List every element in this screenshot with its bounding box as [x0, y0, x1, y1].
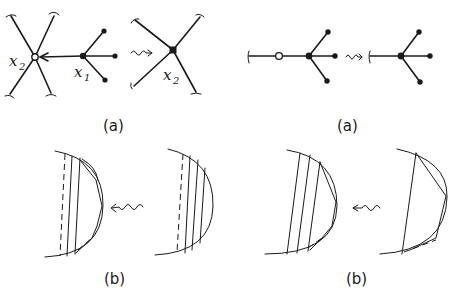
- star-graph-x2: x 2 x 1: [5, 12, 118, 98]
- caption-a-right: (a): [337, 117, 358, 135]
- caption-a-left: (a): [103, 117, 124, 135]
- panel-a-left: x 2 x 1 x 2 (a): [5, 12, 204, 135]
- panel-a-right: (a): [248, 29, 433, 135]
- path-with-open-vertex: [248, 29, 338, 83]
- half-disc-polygon: [45, 151, 103, 257]
- open-vertex-icon: [276, 53, 283, 60]
- half-disc-chords: [265, 150, 337, 254]
- panel-b-left: (b): [45, 149, 213, 288]
- contracted-node: [369, 29, 433, 84]
- vertex-x2-icon: [170, 47, 177, 54]
- caption-b-right: (b): [346, 270, 367, 288]
- contracted-vertex-x2: x 2: [131, 14, 204, 94]
- open-vertex-icon: [32, 54, 38, 60]
- svg-text:1: 1: [84, 72, 90, 83]
- label-x1: x: [74, 63, 83, 81]
- vertex-x1-icon: [80, 53, 86, 59]
- panel-b-right: (b): [265, 149, 447, 288]
- half-disc-hatched: [155, 149, 213, 255]
- svg-text:2: 2: [172, 75, 179, 86]
- squiggle-arrow-icon: [346, 54, 362, 60]
- half-disc-single-chord: [380, 149, 447, 254]
- label-x2-left: x: [9, 52, 18, 70]
- squiggle-arrow-icon: [111, 204, 143, 212]
- label-x2-right: x: [163, 66, 172, 84]
- caption-b-left: (b): [104, 270, 125, 288]
- diagram-canvas: x 2 x 1 x 2 (a): [0, 0, 454, 303]
- squiggle-arrow-icon: [131, 50, 152, 56]
- svg-text:2: 2: [18, 61, 25, 72]
- squiggle-arrow-icon: [353, 205, 380, 211]
